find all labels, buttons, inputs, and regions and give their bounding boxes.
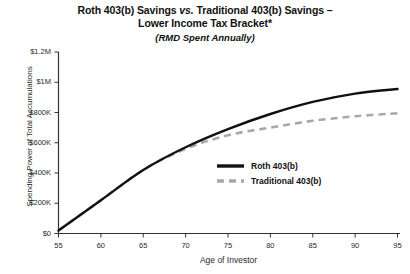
x-tick-label: 70 [174, 241, 198, 250]
chart-canvas [0, 0, 410, 274]
legend-item-roth: Roth 403(b) [217, 158, 321, 173]
x-tick-label: 85 [301, 241, 325, 250]
chart-legend: Roth 403(b) Traditional 403(b) [217, 158, 321, 188]
x-tick-label: 80 [258, 241, 282, 250]
legend-item-traditional: Traditional 403(b) [217, 173, 321, 188]
x-axis-label: Age of Investor [59, 255, 398, 265]
legend-label-roth: Roth 403(b) [251, 161, 298, 171]
legend-label-traditional: Traditional 403(b) [251, 176, 321, 186]
y-tick-label: $0 [5, 229, 51, 238]
x-tick-label: 75 [216, 241, 240, 250]
x-tick-label: 60 [89, 241, 113, 250]
x-tick-label: 55 [47, 241, 71, 250]
y-axis-label: Spending Power of Total Accumulations [25, 47, 34, 227]
legend-swatch-solid-icon [217, 161, 244, 171]
x-tick-label: 90 [343, 241, 367, 250]
chart-plot-area: $0$200K$400K$600K$800K$1M$1.2M 556065707… [0, 0, 410, 274]
legend-swatch-dashed-icon [217, 176, 244, 186]
x-tick-label: 95 [386, 241, 410, 250]
x-axis-ticks [59, 234, 398, 238]
x-tick-label: 65 [131, 241, 155, 250]
